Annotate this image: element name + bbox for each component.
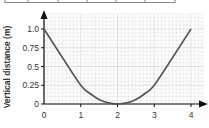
y-tick-label: 0 (34, 99, 39, 109)
x-tick-label: 1 (78, 110, 83, 120)
y-tick-label: 0.5 (27, 62, 39, 72)
x-tick-label: 0 (42, 110, 47, 120)
y-tick-label: 1.0 (27, 24, 39, 34)
chart-figure: 00.250.50.751.0 01234 Vertical distance … (0, 0, 209, 128)
line-chart: 00.250.50.751.0 01234 Vertical distance … (0, 0, 209, 128)
x-tick-label: 2 (115, 110, 120, 120)
y-tick-label: 0.75 (22, 43, 39, 53)
table-strip (5, 0, 175, 3)
x-axis-arrow-icon (199, 101, 208, 108)
x-tick-label: 3 (152, 110, 157, 120)
x-tick-label: 4 (189, 110, 194, 120)
x-tick-labels: 01234 (42, 104, 194, 120)
grid (44, 14, 204, 104)
y-tick-labels: 00.250.50.751.0 (22, 24, 44, 109)
y-tick-label: 0.25 (22, 80, 39, 90)
y-axis-label: Vertical distance (m) (2, 25, 12, 108)
y-axis-arrow-icon (41, 10, 48, 19)
